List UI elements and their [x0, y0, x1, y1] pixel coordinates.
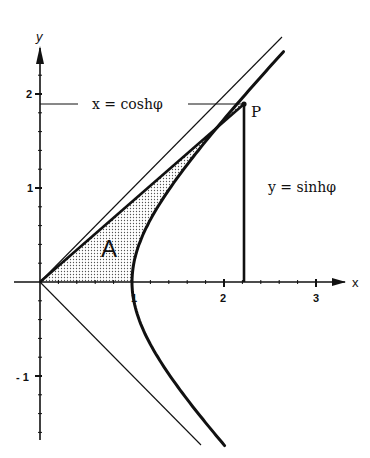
area-label-a: A: [101, 235, 117, 262]
y-tick-label-2: 2: [26, 88, 32, 100]
x-tick-label-3: 3: [313, 292, 319, 304]
y-axis-label: y: [35, 29, 44, 44]
y-tick-label-1: 1: [27, 182, 33, 194]
point-p-marker: [241, 101, 246, 106]
x-equals-cosh-label: x = coshφ: [92, 96, 163, 112]
y-axis-arrow-icon: [36, 46, 44, 64]
point-p-label: P: [251, 103, 261, 121]
y-equals-sinh-label: y = sinhφ: [267, 179, 336, 195]
x-axis-label: x: [352, 275, 359, 290]
x-axis-arrow-icon: [332, 278, 346, 286]
hyperbola-diagram: 1 2 3 2 1 - 1 x y P x = coshφ y = sinhφ …: [0, 0, 370, 458]
asymptote-upper: [40, 37, 282, 282]
asymptote-lower: [40, 282, 201, 445]
x-tick-label-2: 2: [220, 292, 226, 304]
ray-origin-to-p: [40, 104, 244, 282]
y-tick-label-neg1: - 1: [16, 371, 29, 383]
